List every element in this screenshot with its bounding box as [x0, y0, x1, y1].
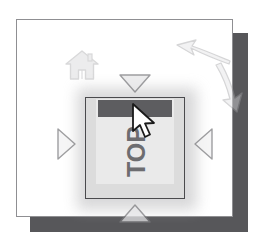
- mouse-cursor: [130, 103, 158, 143]
- orientation-control-screenshot: TOP: [0, 0, 265, 246]
- nav-arrow-up[interactable]: [118, 72, 152, 94]
- rotate-clockwise-icon[interactable]: [209, 62, 247, 114]
- nav-arrow-right[interactable]: [193, 127, 215, 161]
- orientation-panel: TOP: [16, 19, 233, 217]
- home-icon[interactable]: [64, 47, 100, 83]
- nav-arrow-left[interactable]: [55, 127, 77, 161]
- nav-arrow-down[interactable]: [118, 203, 152, 225]
